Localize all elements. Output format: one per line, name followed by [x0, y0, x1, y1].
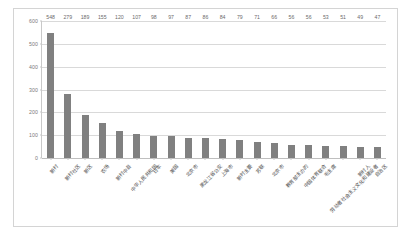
bar-slot: 56 [283, 21, 300, 158]
bar[interactable]: 53 [322, 146, 329, 158]
bar[interactable]: 66 [271, 143, 278, 158]
x-axis-label-slot: 中华人民共和国 [128, 162, 145, 224]
x-axis-label-slot: 新区 [76, 162, 93, 224]
bar[interactable]: 47 [374, 147, 381, 158]
bar-value-label: 87 [185, 15, 191, 20]
bar[interactable]: 84 [219, 139, 226, 158]
bar-series: 5482791891551201079897878684797166565653… [42, 21, 386, 158]
x-axis-label-slot: 北京市 [180, 162, 197, 224]
x-axis-label-slot: 北京市 [266, 162, 283, 224]
gridline [42, 158, 386, 159]
bar-value-label: 47 [375, 15, 381, 20]
bar-slot: 47 [369, 21, 386, 158]
bar-slot: 71 [248, 21, 265, 158]
bar[interactable]: 86 [202, 138, 209, 158]
x-axis-category-label: 苏联 [255, 164, 266, 175]
x-axis-category-label: 美国 [169, 164, 180, 175]
bar[interactable]: 120 [116, 131, 123, 158]
y-axis-tick-label: 400 [29, 64, 38, 70]
bar-slot: 87 [180, 21, 197, 158]
bar[interactable]: 548 [47, 33, 54, 158]
bar[interactable]: 79 [236, 140, 243, 158]
bar[interactable]: 87 [185, 138, 192, 158]
y-axis-tick-label: 300 [29, 87, 38, 93]
bar-value-label: 107 [132, 15, 141, 20]
x-axis-tick-mark [85, 158, 86, 160]
x-axis-label-slot: 新村人 [352, 162, 369, 224]
bar-value-label: 189 [81, 15, 90, 20]
bar-value-label: 79 [237, 15, 243, 20]
bar[interactable]: 189 [82, 115, 89, 158]
x-axis-label-slot: 美国 [162, 162, 179, 224]
bar-slot: 79 [231, 21, 248, 158]
bar-slot: 84 [214, 21, 231, 158]
bar-slot: 51 [334, 21, 351, 158]
x-axis-tick-mark [171, 158, 172, 160]
bar-value-label: 97 [168, 15, 174, 20]
x-axis-category-labels: 新村新村社区新区农场新村中县中华人民共和国日本美国北京市黑龙江省公安上海市新时主… [42, 162, 386, 224]
bar[interactable]: 56 [305, 145, 312, 158]
bar-value-label: 120 [115, 15, 124, 20]
x-axis-tick-mark [360, 158, 361, 160]
x-axis-tick-mark [205, 158, 206, 160]
bar[interactable]: 71 [254, 142, 261, 158]
plot-area: 0100200300400500600 54827918915512010798… [42, 21, 386, 158]
x-axis-category-label: 农场 [100, 164, 111, 175]
x-axis-label-slot: 黑龙江省公安 [197, 162, 214, 224]
x-axis-category-label: 新村 [49, 164, 60, 175]
x-axis-label-slot: 农场 [94, 162, 111, 224]
x-axis-tick-mark [325, 158, 326, 160]
bar[interactable]: 97 [168, 136, 175, 158]
y-axis-tick-label: 500 [29, 41, 38, 47]
x-axis-label-slot: 劳动者社会主义文化和建设者 [334, 162, 351, 224]
bar-value-label: 279 [63, 15, 72, 20]
x-axis-tick-mark [188, 158, 189, 160]
bar[interactable]: 49 [357, 147, 364, 158]
bar-slot: 107 [128, 21, 145, 158]
y-axis-tick-label: 100 [29, 132, 38, 138]
x-axis-tick-mark [291, 158, 292, 160]
x-axis-tick-mark [102, 158, 103, 160]
x-axis-label-slot: 教育部主办的 [283, 162, 300, 224]
bar-slot: 120 [111, 21, 128, 158]
bar-value-label: 84 [220, 15, 226, 20]
x-axis-tick-mark [136, 158, 137, 160]
bar-value-label: 53 [323, 15, 329, 20]
chart-container: 0100200300400500600 54827918915512010798… [13, 8, 398, 227]
x-axis-tick-mark [222, 158, 223, 160]
bar-value-label: 98 [151, 15, 157, 20]
bar-slot: 155 [94, 21, 111, 158]
bar-slot: 97 [162, 21, 179, 158]
x-axis-label-slot: 新村社区 [59, 162, 76, 224]
bar-slot: 49 [352, 21, 369, 158]
bar[interactable]: 107 [133, 134, 140, 158]
x-axis-tick-mark [239, 158, 240, 160]
bar-value-label: 71 [254, 15, 260, 20]
bar[interactable]: 56 [288, 145, 295, 158]
bar-value-label: 548 [46, 15, 55, 20]
bar-value-label: 49 [357, 15, 363, 20]
x-axis-tick-mark [274, 158, 275, 160]
bar-slot: 86 [197, 21, 214, 158]
bar-slot: 53 [317, 21, 334, 158]
x-axis-category-label: 新区 [83, 164, 94, 175]
bar-slot: 548 [42, 21, 59, 158]
x-axis-tick-mark [377, 158, 378, 160]
x-axis-label-slot: 中国体育联合 [300, 162, 317, 224]
x-axis-label-slot: 新村中县 [111, 162, 128, 224]
bar[interactable]: 155 [99, 123, 106, 158]
bar[interactable]: 279 [64, 94, 71, 158]
y-axis-tick-label: 0 [35, 155, 38, 161]
x-axis-label-slot: 新时主要 [231, 162, 248, 224]
x-axis-label-slot: 日本 [145, 162, 162, 224]
bar[interactable]: 51 [340, 146, 347, 158]
x-axis-category-label: 自治区 [374, 164, 388, 178]
x-axis-tick-mark [343, 158, 344, 160]
bar-slot: 98 [145, 21, 162, 158]
x-axis-tick-mark [119, 158, 120, 160]
bar[interactable]: 98 [150, 136, 157, 158]
bar-slot: 66 [266, 21, 283, 158]
x-axis-tick-mark [257, 158, 258, 160]
bar-value-label: 56 [306, 15, 312, 20]
x-axis-label-slot: 新村 [42, 162, 59, 224]
